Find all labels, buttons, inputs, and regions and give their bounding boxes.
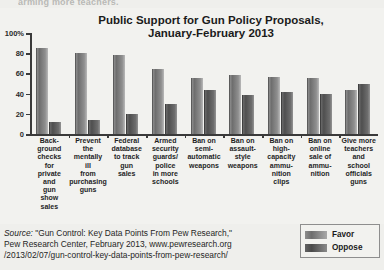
y-axis (30, 33, 32, 134)
x-axis-label-line: nition (301, 170, 339, 178)
legend-label-oppose: Oppose (332, 243, 362, 252)
bar-oppose (358, 84, 370, 135)
y-tick-label: 100% (5, 29, 24, 38)
bar-favor (268, 77, 280, 134)
bar-oppose (281, 92, 293, 134)
legend-swatch-favor-icon (305, 231, 327, 239)
x-axis (30, 134, 378, 136)
bar-favor (229, 75, 241, 134)
x-axis-label: Ban onassault-styleweapons (224, 137, 262, 170)
legend-label-favor: Favor (332, 230, 354, 239)
x-axis-label-line: sales (30, 203, 68, 211)
x-axis-label-line: guns (340, 178, 378, 186)
x-axis-label-line: weapons (224, 162, 262, 170)
y-tick (26, 73, 30, 75)
bar-favor (75, 53, 87, 134)
x-axis-label-line: ammu- (262, 162, 300, 170)
x-axis-label-line: capacity (262, 153, 300, 161)
x-axis-label-line: semi- (185, 145, 223, 153)
x-axis-label-line: and (340, 153, 378, 161)
x-axis-label-line: private (30, 170, 68, 178)
x-axis-label-line: purchasing (69, 178, 107, 186)
legend-swatch-oppose-icon (305, 244, 327, 252)
x-axis-label-line: guards/ (146, 153, 184, 161)
plot-area: 100%806040200 Back-groundchecksforprivat… (30, 33, 378, 134)
x-axis-label-line: Ban on (262, 137, 300, 145)
x-axis-label: Give moreteachersandschoolofficialsguns (340, 137, 378, 186)
x-axis-label-line: gun (108, 162, 146, 170)
bar-group (267, 33, 300, 134)
x-axis-label-line: school (340, 162, 378, 170)
y-tick-label: 80 (16, 49, 24, 58)
y-tick-label: 60 (16, 69, 24, 78)
x-axis-label-line: Prevent (69, 137, 107, 145)
bar-oppose (242, 95, 254, 134)
source-line-1: "Gun Control: Key Data Points From Pew R… (33, 228, 232, 238)
x-axis-label-line: Ban on (185, 137, 223, 145)
x-axis-label: Ban onsemi-automaticweapons (185, 137, 223, 170)
x-axis-label-line: the (69, 145, 107, 153)
x-axis-label: Federaldatabaseto trackgunsales (108, 137, 146, 178)
bar-group (344, 33, 377, 134)
chart-legend: Favor Oppose (300, 224, 380, 258)
bar-favor (345, 90, 357, 134)
x-axis-label-line: online (301, 145, 339, 153)
x-axis-label-line: sale of (301, 153, 339, 161)
y-tick (26, 53, 30, 55)
y-tick (26, 114, 30, 116)
bar-favor (191, 78, 203, 134)
chart-container: Public Support for Gun Policy Proposals,… (0, 8, 384, 224)
x-axis-label-line: schools (146, 178, 184, 186)
x-axis-label-line: show (30, 194, 68, 202)
x-axis-label-line: sales (108, 170, 146, 178)
x-axis-label-line: clips (262, 178, 300, 186)
x-axis-label-line: mentally (69, 153, 107, 161)
y-tick (26, 134, 30, 136)
x-axis-label-line: nition (262, 170, 300, 178)
x-axis-label-line: style (224, 153, 262, 161)
bar-group (35, 33, 68, 134)
bar-favor (113, 55, 125, 134)
x-axis-label-line: Federal (108, 137, 146, 145)
x-axis-label-line: from (69, 170, 107, 178)
bar-group (74, 33, 107, 134)
bar-group (228, 33, 261, 134)
bar-oppose (126, 114, 138, 134)
x-axis-label-line: automatic (185, 153, 223, 161)
bar-group (151, 33, 184, 134)
bar-oppose (49, 122, 61, 134)
y-tick (26, 33, 30, 35)
source-line-3: /2013/02/07/gun-control-key-data-points-… (4, 250, 228, 260)
x-axis-label-line: database (108, 145, 146, 153)
x-axis-label-line: assault- (224, 145, 262, 153)
y-tick-label: 0 (20, 130, 24, 139)
source-note: Source: "Gun Control: Key Data Points Fr… (4, 228, 294, 261)
bar-group (112, 33, 145, 134)
x-axis-label-line: police (146, 162, 184, 170)
x-axis-label-line: teachers (340, 145, 378, 153)
x-axis-label-line: Armed (146, 137, 184, 145)
bar-favor (152, 69, 164, 134)
bar-oppose (204, 90, 216, 134)
x-axis-label-line: for (30, 162, 68, 170)
x-axis-label-line: high- (262, 145, 300, 153)
x-axis-label-line: ground (30, 145, 68, 153)
x-axis-label-line: guns (69, 186, 107, 194)
x-axis-label-line: ill (69, 162, 107, 170)
x-axis-label-line: and (30, 178, 68, 186)
y-tick-label: 40 (16, 89, 24, 98)
bar-favor (307, 78, 319, 134)
x-axis-label-line: officials (340, 170, 378, 178)
legend-item-oppose: Oppose (305, 241, 375, 254)
x-axis-label-line: security (146, 145, 184, 153)
x-axis-label-line: gun (30, 186, 68, 194)
bar-oppose (165, 104, 177, 134)
bar-favor (36, 48, 48, 134)
source-line-2: Pew Research Center, February 2013, www.… (4, 239, 232, 249)
x-axis-label-line: weapons (185, 162, 223, 170)
x-axis-label-line: Ban on (224, 137, 262, 145)
source-label: Source: (4, 228, 33, 238)
bar-group (190, 33, 223, 134)
bar-group (306, 33, 339, 134)
x-axis-label: Armedsecurityguards/policein moreschools (146, 137, 184, 186)
